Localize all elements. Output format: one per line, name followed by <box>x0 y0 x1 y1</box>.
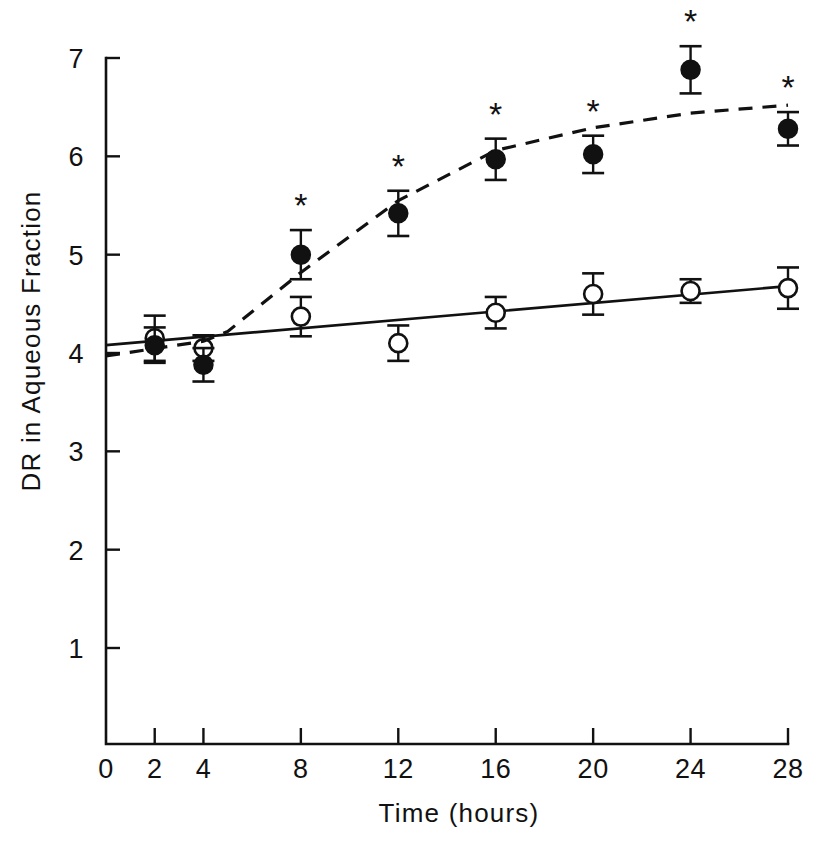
trend-line-dashed <box>106 105 788 356</box>
y-tick-label: 1 <box>68 634 84 664</box>
y-axis-title: DR in Aqueous Fraction <box>16 191 46 492</box>
axis-frame <box>106 58 788 744</box>
x-tick-label: 2 <box>147 754 163 784</box>
x-axis-title: Time (hours) <box>379 798 540 828</box>
significance-asterisk: * <box>684 2 697 40</box>
y-tick-label: 3 <box>68 437 84 467</box>
x-tick-label: 4 <box>196 754 212 784</box>
data-point-open <box>292 308 310 326</box>
significance-asterisk: * <box>294 186 307 224</box>
data-point-filled <box>389 204 408 223</box>
x-tick-label: 20 <box>578 754 609 784</box>
data-point-open <box>584 285 602 303</box>
data-point-filled <box>291 245 310 264</box>
axes <box>106 58 788 744</box>
x-tick-label: 28 <box>772 754 803 784</box>
line-chart: ****** 123456702481216202428Time (hours)… <box>0 0 823 851</box>
data-point-filled <box>194 355 213 374</box>
series-filled-circle-series: ****** <box>106 2 799 381</box>
x-tick-label: 16 <box>480 754 511 784</box>
y-tick-label: 7 <box>68 44 84 74</box>
data-point-filled <box>584 145 603 164</box>
significance-asterisk: * <box>489 95 502 133</box>
data-point-filled <box>779 119 798 138</box>
figure-container: ****** 123456702481216202428Time (hours)… <box>0 0 823 851</box>
x-tick-label: 8 <box>293 754 309 784</box>
x-tick-label: 12 <box>383 754 414 784</box>
data-point-open <box>682 282 700 300</box>
data-point-open <box>779 279 797 297</box>
significance-asterisk: * <box>781 68 794 106</box>
x-tick-label: 24 <box>675 754 706 784</box>
y-tick-label: 6 <box>68 142 84 172</box>
data-point-filled <box>145 336 164 355</box>
y-tick-label: 5 <box>68 241 84 271</box>
x-tick-label: 0 <box>98 754 114 784</box>
y-tick-label: 4 <box>68 339 84 369</box>
data-point-filled <box>681 60 700 79</box>
data-point-filled <box>486 150 505 169</box>
axis-labels: 123456702481216202428Time (hours)DR in A… <box>16 44 804 828</box>
data-point-open <box>487 304 505 322</box>
significance-asterisk: * <box>587 92 600 130</box>
significance-asterisk: * <box>392 147 405 185</box>
data-point-open <box>389 334 407 352</box>
data-series: ****** <box>106 2 799 381</box>
y-tick-label: 2 <box>68 536 84 566</box>
